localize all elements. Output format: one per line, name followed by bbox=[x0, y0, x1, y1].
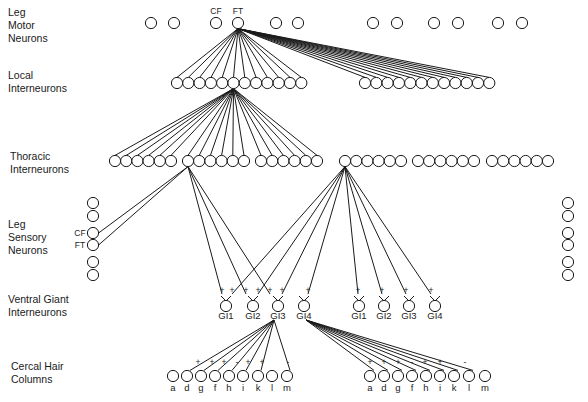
motor-neuron bbox=[145, 17, 156, 28]
local-interneuron bbox=[371, 77, 382, 88]
synapse-sign: + bbox=[306, 285, 311, 295]
cercal-hair bbox=[463, 370, 474, 381]
thoracic-interneuron bbox=[165, 155, 176, 166]
motor-neuron bbox=[452, 17, 463, 28]
connection-line bbox=[149, 89, 234, 156]
motor-neuron bbox=[428, 17, 439, 28]
synapse-sign: + bbox=[280, 285, 285, 295]
local-interneuron bbox=[296, 77, 307, 88]
motor-neuron bbox=[391, 17, 402, 28]
connection-line bbox=[177, 29, 238, 78]
giant-interneuron-label: GI3 bbox=[270, 310, 285, 321]
thoracic-interneuron bbox=[509, 155, 520, 166]
local-interneuron bbox=[382, 77, 393, 88]
cercal-hair bbox=[167, 370, 178, 381]
thoracic-interneuron bbox=[182, 155, 193, 166]
synapse-sign: + bbox=[222, 357, 227, 367]
connection-line bbox=[232, 167, 345, 294]
thoracic-interneuron bbox=[143, 155, 154, 166]
synapse-sign: + bbox=[382, 357, 387, 367]
local-interneuron bbox=[393, 77, 404, 88]
thoracic-interneuron bbox=[373, 155, 384, 166]
synapse-sign: + bbox=[423, 357, 428, 367]
thoracic-interneuron bbox=[311, 155, 322, 166]
local-interneuron bbox=[194, 77, 205, 88]
cercal-hair-label: f bbox=[214, 382, 217, 393]
cercal-hair-label: m bbox=[283, 382, 291, 393]
local-interneuron bbox=[183, 77, 194, 88]
giant-interneuron-label: GI1 bbox=[218, 310, 233, 321]
local-interneuron bbox=[171, 77, 182, 88]
thoracic-interneuron bbox=[227, 155, 238, 166]
thoracic-interneuron bbox=[267, 155, 278, 166]
synapse-sign: - bbox=[287, 357, 290, 367]
thoracic-interneuron bbox=[154, 155, 165, 166]
local-interneuron bbox=[405, 77, 416, 88]
cercal-hair bbox=[181, 370, 192, 381]
cercal-hair bbox=[378, 370, 389, 381]
cercal-hair-label: g bbox=[198, 382, 203, 393]
leg-sensory-neuron bbox=[562, 256, 573, 267]
giant-interneuron-label: GI2 bbox=[376, 310, 391, 321]
synapse-sign: + bbox=[220, 285, 225, 295]
local-interneuron bbox=[284, 77, 295, 88]
connection-line bbox=[258, 167, 345, 294]
synapse-sign: + bbox=[268, 285, 273, 295]
cercal-hair-label: a bbox=[367, 382, 373, 393]
leg-sensory-neuron bbox=[87, 269, 98, 280]
synapse-sign: + bbox=[438, 357, 443, 367]
connection-line bbox=[306, 320, 374, 370]
cercal-hair bbox=[364, 370, 375, 381]
thoracic-interneuron bbox=[457, 155, 468, 166]
thoracic-interneuron bbox=[531, 155, 542, 166]
connection-line bbox=[306, 320, 402, 370]
thoracic-interneuron bbox=[121, 155, 132, 166]
cercal-hair bbox=[195, 370, 206, 381]
local-interneuron bbox=[461, 77, 472, 88]
thoracic-interneuron bbox=[412, 155, 423, 166]
motor-neuron bbox=[492, 17, 503, 28]
cercal-hair-label: d bbox=[381, 382, 386, 393]
giant-interneuron-label: GI2 bbox=[245, 310, 260, 321]
thoracic-interneuron bbox=[424, 155, 435, 166]
cercal-hair-label: h bbox=[423, 382, 428, 393]
synapse-sign: + bbox=[256, 285, 261, 295]
thoracic-interneuron bbox=[109, 155, 120, 166]
leg-sensory-neuron bbox=[562, 210, 573, 221]
motor-neuron bbox=[292, 17, 303, 28]
connection-line bbox=[345, 167, 382, 294]
cercal-hair bbox=[281, 370, 292, 381]
motor-neuron bbox=[168, 17, 179, 28]
synapse-sign: + bbox=[356, 285, 361, 295]
synapse-sign: + bbox=[429, 285, 434, 295]
leg-sensory-neuron bbox=[87, 210, 98, 221]
motor-neuron bbox=[270, 17, 281, 28]
cercal-hair bbox=[434, 370, 445, 381]
connection-line bbox=[234, 89, 306, 156]
cercal-hair-label: k bbox=[256, 382, 261, 393]
thoracic-interneuron bbox=[238, 155, 249, 166]
synapse-sign: + bbox=[260, 357, 265, 367]
leg-sensory-neuron bbox=[562, 227, 573, 238]
thoracic-interneuron bbox=[205, 155, 216, 166]
cercal-hair-label: g bbox=[395, 382, 400, 393]
connection-line bbox=[345, 167, 358, 294]
cercal-hair-label: l bbox=[468, 382, 470, 393]
cercal-hair bbox=[209, 370, 220, 381]
thoracic-interneuron bbox=[435, 155, 446, 166]
connection-line bbox=[234, 89, 262, 156]
motor-neuron-label: FT bbox=[233, 6, 243, 16]
thoracic-interneuron bbox=[446, 155, 457, 166]
connection-line bbox=[234, 89, 273, 156]
thoracic-interneuron bbox=[300, 155, 311, 166]
connection-line bbox=[345, 167, 406, 294]
thoracic-interneuron bbox=[351, 155, 362, 166]
thoracic-interneuron bbox=[362, 155, 373, 166]
cercal-hair-label: k bbox=[452, 382, 457, 393]
local-interneuron bbox=[251, 77, 262, 88]
cercal-hair-label: d bbox=[184, 382, 189, 393]
synapse-sign: + bbox=[404, 285, 409, 295]
leg-sensory-neuron bbox=[562, 197, 573, 208]
synapse-sign: - bbox=[464, 357, 467, 367]
cercal-hair bbox=[392, 370, 403, 381]
